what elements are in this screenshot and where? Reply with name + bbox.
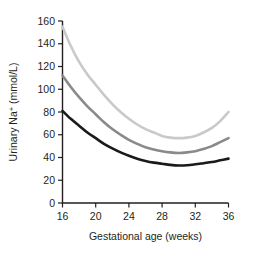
y-axis-tick-label: 80 — [43, 106, 55, 118]
y-axis-title-main: Urinary Na — [7, 111, 19, 161]
series-line-lower-percentile — [63, 111, 229, 166]
series-line-upper-percentile — [63, 27, 229, 138]
y-axis-title: Urinary Na+ (mmol/L) — [7, 63, 20, 162]
series-line-median — [63, 76, 229, 153]
y-axis-tick-label: 60 — [43, 128, 55, 140]
x-axis-tick-label: 28 — [156, 210, 168, 222]
axis-lines — [63, 21, 229, 203]
y-axis-tick-label: 120 — [37, 60, 55, 72]
urinary-sodium-line-chart: 020406080100120140160162024283236Gestati… — [0, 0, 261, 268]
y-axis-tick-label: 0 — [49, 197, 55, 209]
x-axis-tick-label: 16 — [57, 210, 69, 222]
y-axis-tick-label: 100 — [37, 83, 55, 95]
y-axis-tick-label: 140 — [37, 37, 55, 49]
x-axis-tick-label: 36 — [223, 210, 235, 222]
x-axis-tick-label: 32 — [189, 210, 201, 222]
y-axis-tick-label: 160 — [37, 15, 55, 27]
y-axis-tick-label: 40 — [43, 151, 55, 163]
chart-figure: 020406080100120140160162024283236Gestati… — [0, 0, 261, 268]
x-axis-tick-label: 24 — [123, 210, 135, 222]
x-axis-tick-label: 20 — [90, 210, 102, 222]
y-axis-title-units: (mmol/L) — [7, 63, 19, 107]
x-axis-title: Gestational age (weeks) — [89, 230, 202, 242]
y-axis-tick-label: 20 — [43, 174, 55, 186]
